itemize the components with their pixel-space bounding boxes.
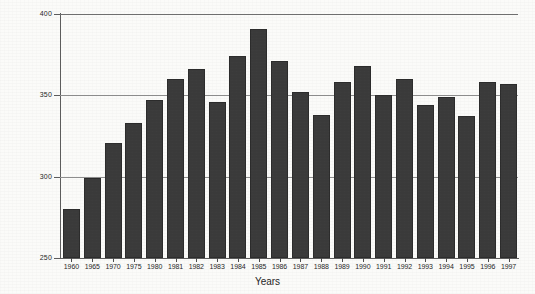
bar-series [60, 14, 518, 258]
bar [146, 100, 163, 258]
bar [250, 29, 267, 258]
bar [354, 66, 371, 258]
bar [209, 102, 226, 258]
y-axis-tick-label: 300 [24, 173, 52, 180]
bar [292, 92, 309, 258]
bar [125, 123, 142, 258]
x-axis-tick [342, 258, 343, 262]
bar [84, 178, 101, 258]
bar [458, 116, 475, 258]
x-axis-tick [176, 258, 177, 262]
x-axis-labels: 1960196519701975198019811982198319841985… [60, 263, 519, 275]
x-axis-tick [113, 258, 114, 262]
x-axis-tick-label: 1997 [494, 263, 524, 270]
x-axis-tick [92, 258, 93, 262]
x-axis-tick [363, 258, 364, 262]
x-axis-tick [405, 258, 406, 262]
plot-area [60, 14, 518, 258]
x-axis-tick [467, 258, 468, 262]
x-axis-tick [384, 258, 385, 262]
bar [334, 82, 351, 258]
x-axis-tick [321, 258, 322, 262]
x-axis-tick [71, 258, 72, 262]
x-axis-tick [134, 258, 135, 262]
x-axis-title: Years [0, 276, 535, 287]
bar [167, 79, 184, 258]
x-axis-tick [488, 258, 489, 262]
y-axis-tick-label: 250 [24, 254, 52, 261]
x-axis-tick [446, 258, 447, 262]
bar [105, 143, 122, 258]
bar [396, 79, 413, 258]
bar [63, 209, 80, 258]
x-axis-tick [280, 258, 281, 262]
bar [229, 56, 246, 258]
bar [500, 84, 517, 258]
bar [479, 82, 496, 258]
x-axis-tick [509, 258, 510, 262]
y-axis-tick-label: 350 [24, 91, 52, 98]
x-axis-tick [259, 258, 260, 262]
bar [188, 69, 205, 258]
x-axis-tick [300, 258, 301, 262]
x-axis-tick [155, 258, 156, 262]
x-axis-tick [238, 258, 239, 262]
x-axis-tick [217, 258, 218, 262]
y-axis-tick-label: 400 [24, 10, 52, 17]
bar [271, 61, 288, 258]
y-axis-labels: 400 350 300 250 [18, 0, 52, 294]
x-axis-tick [196, 258, 197, 262]
bar [313, 115, 330, 258]
bar [417, 105, 434, 258]
bar [438, 97, 455, 258]
bar [375, 95, 392, 258]
x-axis-tick [425, 258, 426, 262]
bar-chart: 400 350 300 250 196019651970197519801981… [0, 0, 535, 294]
